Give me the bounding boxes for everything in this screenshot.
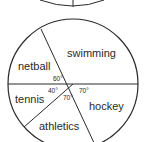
angle-label-hockey: 70° [79, 87, 89, 94]
pie-chart: swimming netball tennis athletics hockey… [8, 19, 138, 142]
partial-circle-arc [40, 0, 104, 6]
angle-label-tennis: 40° [48, 87, 58, 94]
figure-canvas: swimming netball tennis athletics hockey… [0, 0, 146, 142]
angle-label-netball: 60° [53, 75, 63, 82]
sector-label-swimming: swimming [67, 47, 116, 59]
sector-label-tennis: tennis [15, 93, 45, 105]
partial-pie-chart-top [40, 0, 104, 7]
sector-label-hockey: hockey [89, 100, 124, 112]
sector-label-netball: netball [18, 60, 50, 72]
sector-label-athletics: athletics [39, 120, 80, 132]
angle-label-athletics: 70° [63, 94, 73, 101]
